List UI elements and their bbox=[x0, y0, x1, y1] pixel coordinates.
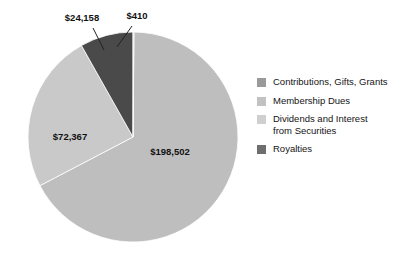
legend-color-swatch-icon bbox=[257, 78, 266, 87]
pie-chart-figure: $198,502$72,367$24,158$410 Contributions… bbox=[0, 0, 406, 266]
legend-item-label: Membership Dues bbox=[273, 95, 350, 107]
slice-value-label: $198,502 bbox=[150, 146, 190, 157]
legend-item[interactable]: Royalties bbox=[257, 143, 406, 155]
legend-item-label: Contributions, Gifts, Grants bbox=[273, 76, 388, 88]
legend-item-label: Royalties bbox=[273, 143, 312, 155]
legend-item[interactable]: Dividends and Interest from Securities bbox=[257, 113, 406, 136]
legend-color-swatch-icon bbox=[257, 145, 266, 154]
legend-color-swatch-icon bbox=[257, 115, 266, 124]
slice-value-label: $410 bbox=[126, 10, 147, 21]
legend-item[interactable]: Contributions, Gifts, Grants bbox=[257, 76, 406, 88]
legend-item-label: Dividends and Interest from Securities bbox=[273, 113, 368, 136]
slice-value-label: $24,158 bbox=[65, 12, 99, 23]
slice-value-label: $72,367 bbox=[53, 131, 87, 142]
legend-item[interactable]: Membership Dues bbox=[257, 95, 406, 107]
chart-legend: Contributions, Gifts, GrantsMembership D… bbox=[257, 76, 406, 162]
legend-color-swatch-icon bbox=[257, 97, 266, 106]
